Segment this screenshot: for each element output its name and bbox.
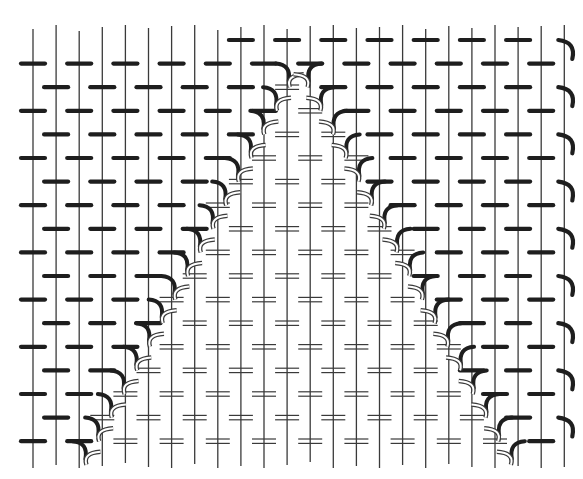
boundary-hook-right: [473, 370, 486, 388]
boundary-hook-right: [422, 276, 435, 294]
right-edge-hook: [558, 418, 573, 437]
right-edge-hook: [558, 276, 573, 295]
boundary-hook-left: [85, 418, 98, 436]
boundary-hook-left: [111, 370, 124, 388]
boundary-hook-right: [448, 323, 461, 341]
right-edge-hook: [558, 134, 573, 153]
boundary-hook-right: [384, 205, 397, 223]
boundary-hook-left: [238, 134, 251, 152]
boundary-hook-left: [161, 276, 174, 294]
boundary-hook-left: [212, 182, 225, 200]
boundary-hook-right: [410, 252, 423, 270]
boundary-hook-right: [435, 300, 448, 318]
right-edge-hook: [558, 229, 573, 248]
right-edge-hook: [558, 40, 573, 59]
boundary-hook-left: [136, 323, 149, 341]
boundary-hook-left: [98, 394, 111, 412]
boundary-hook-right: [334, 111, 347, 129]
boundary-hook-left: [149, 300, 162, 318]
right-edge-hook: [558, 370, 573, 389]
weave-diagram: [0, 0, 583, 479]
boundary-hook-right: [359, 158, 372, 176]
boundary-hook-left: [187, 229, 200, 247]
boundary-hook-right: [372, 182, 385, 200]
boundary-hook-left: [276, 64, 289, 82]
boundary-hook-right: [499, 418, 512, 436]
boundary-hook-right: [486, 394, 499, 412]
boundary-hook-left: [174, 252, 187, 270]
warp-lines: [33, 25, 564, 468]
boundary-hook-right: [397, 229, 410, 247]
boundary-hook-right: [308, 64, 321, 82]
right-edge-hook: [558, 182, 573, 201]
boundary-hook-left: [250, 111, 263, 129]
right-edge-hook: [558, 87, 573, 106]
boundary-hook-left: [263, 87, 276, 105]
boundary-hook-right: [321, 87, 334, 105]
boundary-hook-left: [225, 158, 238, 176]
boundary-hook-right: [346, 134, 359, 152]
boundary-hook-left: [199, 205, 212, 223]
right-edge-hook: [558, 323, 573, 342]
